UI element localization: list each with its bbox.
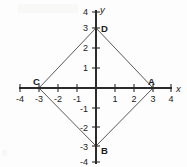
y-tick-label-2: 2 [74, 44, 88, 53]
x-tick-label-1: 1 [112, 95, 117, 104]
edge-D-A [96, 28, 153, 88]
y-tick-label-3: 3 [74, 24, 88, 33]
x-tick-label-4: 4 [168, 95, 173, 104]
coordinate-plane-svg [0, 0, 187, 167]
vertex-label-B: B [101, 146, 108, 155]
vertex-marker-D [95, 27, 97, 29]
y-tick-label--1: -1 [72, 105, 88, 114]
x-tick-label-3: 3 [150, 95, 155, 104]
vertex-marker-C [38, 87, 40, 89]
x-tick-label--2: -2 [54, 95, 62, 104]
figure-canvas: -4 -3 -2 -1 1 2 3 4 4 3 2 1 -1 -2 -3 -4 … [0, 0, 187, 167]
vertex-label-C: C [33, 77, 40, 86]
x-tick-label-2: 2 [131, 95, 136, 104]
y-tick-label--2: -2 [72, 124, 88, 133]
edge-C-D [39, 28, 96, 88]
x-axis-label: x [176, 84, 181, 93]
vertex-marker-A [152, 87, 154, 89]
x-tick-label--4: -4 [16, 95, 24, 104]
y-axis-label: y [100, 5, 105, 14]
y-tick-label-1: 1 [74, 64, 88, 73]
y-tick-label-4: 4 [74, 8, 88, 17]
x-tick-label--3: -3 [35, 95, 43, 104]
vertex-label-A: A [148, 77, 155, 86]
axes-group [19, 10, 172, 164]
y-tick-label--3: -3 [72, 143, 88, 152]
vertex-marker-B [95, 145, 97, 147]
edge-B-C [39, 88, 96, 146]
y-tick-label--4: -4 [72, 158, 88, 167]
vertex-label-D: D [101, 24, 108, 33]
edge-A-B [96, 88, 153, 146]
